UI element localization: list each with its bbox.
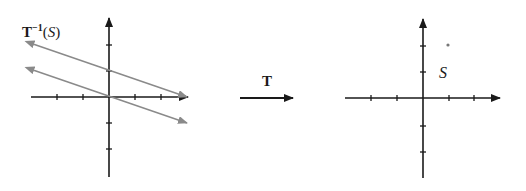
point-s [446, 43, 449, 46]
diagram-canvas [0, 0, 526, 191]
right-plot [345, 19, 500, 178]
transform-label: T [262, 73, 272, 90]
set-s-label: S [439, 64, 447, 82]
left-plot [31, 18, 188, 177]
upper-line [33, 44, 187, 97]
left-plot-title: T−1(S) [22, 22, 60, 41]
